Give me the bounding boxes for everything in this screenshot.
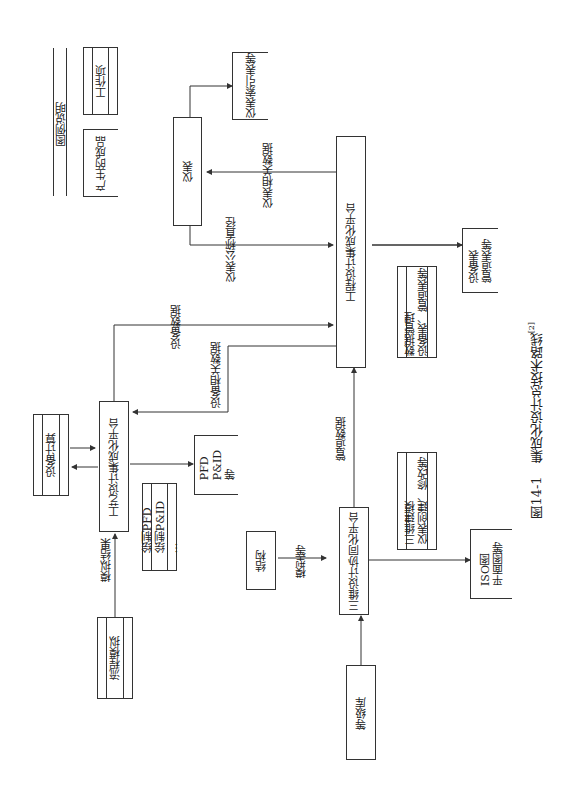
edge-label-inst-nominal: 仪表公称直径 <box>225 217 238 283</box>
node-instrument-label: 仪表 <box>181 161 194 183</box>
node-process-platform-label: 工艺设计集成化平台 <box>108 417 121 516</box>
edge-label-inst-related: 仪表相关数据 <box>262 143 275 209</box>
node-structure-label: 结构 <box>255 550 268 572</box>
node-iso-output: ISO图平面图等 <box>470 529 512 599</box>
edge-label-sim-result: 模拟结果 <box>100 538 113 582</box>
node-eng-platform: 工程设计集成化平台 <box>336 136 366 368</box>
legend-product: 产生的成品 <box>83 129 118 197</box>
node-grade-lib-label: 等级库 <box>355 696 368 729</box>
edge-label-equip-related: 设备相关数据 <box>210 342 223 408</box>
node-structure: 结构 <box>246 531 276 590</box>
node-flow-sim: 流程模拟 <box>97 617 133 699</box>
legend-rule-left <box>53 48 54 196</box>
legend-title: 图例说明 <box>55 102 68 146</box>
node-flow-sim-label: 流程模拟 <box>109 636 122 680</box>
figure-caption: 图14-1 集成化设计总技术路线[2] <box>525 322 543 519</box>
edge-label-equip-data: 设备数据 <box>170 305 183 349</box>
legend-work-item-label: 工作项 <box>94 65 107 98</box>
node-draw-pfd: 绘制PFD绘制P&ID... <box>142 483 177 571</box>
node-data-mgmt-label: 数据管理设备表、管道表等 <box>404 268 430 356</box>
node-equip-calc: 设备计算 <box>33 414 69 496</box>
node-data-mgmt: 数据管理设备表、管道表等 <box>397 266 437 358</box>
node-3d-platform-label: 三维设计协同化平台 <box>348 512 361 611</box>
node-instrument: 仪表 <box>173 117 202 226</box>
node-modeling-label: 三维建模仪表创建、修改等 <box>404 457 430 545</box>
node-pfd-output-label: PFDP&ID等 <box>197 450 236 480</box>
node-equip-pipe-list: 设备表管道表等 <box>462 228 498 293</box>
edge-label-model-etc: 模型等 <box>295 545 308 578</box>
legend-product-label: 产生的成品 <box>95 136 108 191</box>
node-instrument-index-label: 仪表索引表等 <box>244 53 257 119</box>
node-equip-calc-label: 设备计算 <box>45 433 58 477</box>
node-pfd-output: PFDP&ID等 <box>194 435 238 495</box>
node-draw-pfd-label: 绘制PFD绘制P&ID... <box>140 501 179 553</box>
node-grade-lib: 等级库 <box>346 665 376 760</box>
node-eng-platform-label: 工程设计集成化平台 <box>345 203 358 302</box>
node-process-platform: 工艺设计集成化平台 <box>99 401 129 532</box>
node-instrument-index: 仪表索引表等 <box>232 52 268 120</box>
legend-work-item: 工作项 <box>83 47 118 115</box>
connector-lines <box>0 0 583 800</box>
node-3d-platform: 三维设计协同化平台 <box>339 507 369 615</box>
edge-label-pipe-data: 管道数据 <box>335 417 348 461</box>
node-iso-output-label: ISO图平面图等 <box>479 542 505 586</box>
node-equip-pipe-list-label: 设备表管道表等 <box>468 239 494 283</box>
node-modeling: 三维建模仪表创建、修改等 <box>397 452 437 550</box>
